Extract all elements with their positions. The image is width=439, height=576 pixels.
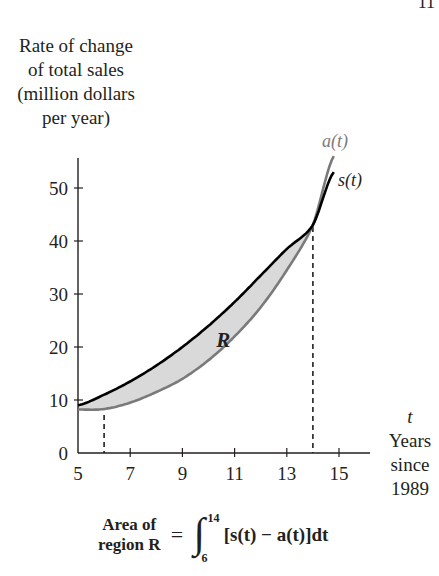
- x-tick-label: 9: [178, 463, 188, 484]
- x-axis-label-line: 1989: [380, 477, 439, 501]
- area-formula: Area of region R = ∫ 14 6 [s(t) − a(t)]d…: [98, 510, 328, 560]
- x-axis-variable: t: [380, 405, 439, 429]
- x-tick-label: 15: [330, 463, 349, 484]
- formula-lhs-line1: Area of: [98, 515, 161, 535]
- x-tick-label: 13: [277, 463, 296, 484]
- s-curve: [78, 172, 334, 405]
- y-tick-label: 20: [49, 337, 68, 358]
- y-tick-label: 0: [59, 443, 69, 464]
- x-axis-label: t Years since 1989: [380, 405, 439, 501]
- integrand: [s(t) − a(t)]dt: [224, 525, 329, 545]
- equals-sign: =: [171, 525, 183, 545]
- plot-area: 01020304050579111315Ra(t)s(t): [49, 131, 370, 484]
- y-tick-label: 10: [49, 390, 68, 411]
- integral: ∫ 14 6: [193, 510, 219, 560]
- a-curve-label: a(t): [322, 131, 348, 152]
- integral-lower-limit: 6: [201, 548, 207, 568]
- x-tick-label: 5: [73, 463, 83, 484]
- chart-plot: 01020304050579111315Ra(t)s(t): [0, 0, 439, 576]
- s-curve-label: s(t): [338, 170, 362, 191]
- region-r-label: R: [215, 328, 230, 352]
- x-axis-label-line: Years: [380, 429, 439, 453]
- integral-upper-limit: 14: [207, 508, 219, 528]
- y-tick-label: 40: [49, 231, 68, 252]
- formula-lhs-line2: region R: [98, 535, 161, 555]
- x-tick-label: 7: [125, 463, 135, 484]
- y-tick-label: 30: [49, 284, 68, 305]
- formula-lhs: Area of region R: [98, 515, 161, 555]
- formula-lhs-line2-text: region R: [98, 535, 161, 554]
- x-tick-label: 11: [225, 463, 243, 484]
- x-axis-label-line: since: [380, 453, 439, 477]
- y-tick-label: 50: [49, 178, 68, 199]
- shaded-region-r: [78, 225, 313, 410]
- a-curve: [78, 156, 334, 410]
